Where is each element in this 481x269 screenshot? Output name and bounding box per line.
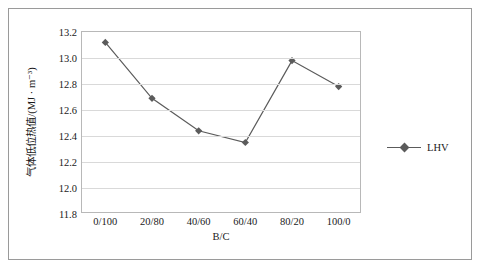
- x-tick-label: 20/80: [140, 216, 164, 227]
- y-tick-label: 12.0: [59, 183, 77, 194]
- x-tick-label: 40/60: [187, 216, 211, 227]
- y-tick-label: 12.2: [59, 157, 77, 168]
- chart-frame: 11.812.012.212.412.612.813.013.20/10020/…: [8, 8, 472, 260]
- y-tick-label: 12.6: [59, 105, 77, 116]
- gridline: [82, 162, 360, 163]
- y-tick-label: 12.8: [59, 79, 77, 90]
- gridline: [82, 110, 360, 111]
- x-tick-label: 80/20: [280, 216, 304, 227]
- y-tick-label: 13.0: [59, 53, 77, 64]
- legend-label-lhv: LHV: [427, 142, 449, 153]
- plot-area: 11.812.012.212.412.612.813.013.20/10020/…: [81, 31, 361, 213]
- y-tick-label: 13.2: [59, 27, 77, 38]
- x-tick-label: 0/100: [93, 216, 117, 227]
- legend-marker-icon: [387, 143, 421, 153]
- data-point-marker: [195, 127, 202, 134]
- gridline: [82, 84, 360, 85]
- x-tick-label: 60/40: [233, 216, 257, 227]
- gridline: [82, 188, 360, 189]
- y-tick-label: 11.8: [59, 209, 77, 220]
- figure-container: 11.812.012.212.412.612.813.013.20/10020/…: [0, 0, 481, 269]
- x-axis-label: B/C: [81, 231, 361, 242]
- y-axis-label: 气体低位热值/(MJ · m⁻³): [23, 31, 39, 213]
- gridline: [82, 136, 360, 137]
- x-tick-label: 100/0: [327, 216, 351, 227]
- gridline: [82, 58, 360, 59]
- y-tick-label: 12.4: [59, 131, 77, 142]
- legend: LHV: [387, 142, 449, 153]
- series-lhv: [82, 32, 362, 214]
- data-point-marker: [242, 139, 249, 146]
